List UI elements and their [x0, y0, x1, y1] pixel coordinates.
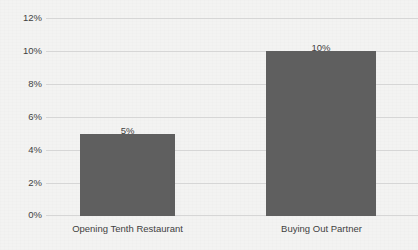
y-tick-label-0: 0% — [2, 210, 42, 220]
category-label-buying-out-partner: Buying Out Partner — [241, 224, 402, 234]
gridline-12 — [46, 18, 418, 19]
category-label-opening-tenth-restaurant: Opening Tenth Restaurant — [47, 224, 208, 234]
y-tick-label-6: 6% — [2, 112, 42, 122]
bar-opening-tenth-restaurant[interactable] — [80, 134, 175, 217]
chart-title — [60, 0, 260, 2]
y-axis: 12% 10% 8% 6% 4% 2% 0% — [0, 18, 42, 216]
bar-chart: 12% 10% 8% 6% 4% 2% 0% 5% 10% Opening Te… — [0, 0, 418, 250]
y-tick-label-4: 4% — [2, 145, 42, 155]
bar-buying-out-partner[interactable] — [266, 51, 376, 216]
y-tick-label-8: 8% — [2, 79, 42, 89]
y-tick-label-12: 12% — [2, 13, 42, 23]
y-tick-label-10: 10% — [2, 46, 42, 56]
bar-value-label-buying-out-partner: 10% — [266, 43, 376, 53]
y-tick-label-2: 2% — [2, 178, 42, 188]
bar-value-label-opening-tenth-restaurant: 5% — [80, 126, 175, 136]
